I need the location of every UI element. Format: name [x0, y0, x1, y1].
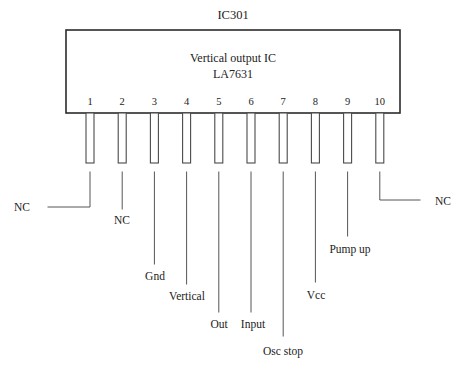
package-part-number: LA7631 — [213, 67, 253, 81]
pin-body-1 — [86, 113, 94, 163]
pin-number-2: 2 — [120, 96, 125, 107]
pin-body-3 — [150, 113, 158, 163]
pin-number-1: 1 — [87, 96, 92, 107]
pin-body-5 — [215, 113, 223, 163]
pins-layer: 1NC2NC3Gnd4Vertical5Out6Input7Osc stop8V… — [14, 96, 451, 358]
pin-number-6: 6 — [248, 96, 253, 107]
diagram-title: IC301 — [217, 8, 248, 22]
pin-body-2 — [118, 113, 126, 163]
pin-label-3: Gnd — [145, 270, 165, 282]
pin-body-4 — [183, 113, 191, 163]
diagram-canvas: IC301 Vertical output IC LA7631 1NC2NC3G… — [0, 0, 465, 372]
pin-label-1: NC — [14, 201, 30, 213]
lead-elbow-1 — [48, 172, 90, 207]
pin-body-9 — [344, 113, 352, 163]
pin-label-7: Osc stop — [263, 345, 303, 358]
pin-number-9: 9 — [345, 96, 350, 107]
pin-number-3: 3 — [152, 96, 157, 107]
pin-label-8: Vcc — [307, 289, 326, 301]
pin-body-6 — [247, 113, 255, 163]
pin-body-7 — [279, 113, 287, 163]
pin-label-4: Vertical — [169, 290, 205, 302]
ic-pinout-diagram: IC301 Vertical output IC LA7631 1NC2NC3G… — [0, 0, 465, 372]
pin-label-2: NC — [114, 214, 130, 226]
lead-elbow-10 — [380, 172, 420, 200]
package-description-line1: Vertical output IC — [190, 51, 276, 65]
pin-number-8: 8 — [313, 96, 318, 107]
pin-number-10: 10 — [375, 96, 386, 107]
pin-number-7: 7 — [281, 96, 286, 107]
pin-body-8 — [311, 113, 319, 163]
pin-label-10: NC — [435, 195, 451, 207]
pin-number-4: 4 — [184, 96, 190, 107]
pin-label-5: Out — [210, 318, 228, 330]
pin-body-10 — [376, 113, 384, 163]
pin-number-5: 5 — [216, 96, 221, 107]
pin-label-6: Input — [241, 318, 266, 331]
pin-label-9: Pump up — [329, 243, 370, 256]
